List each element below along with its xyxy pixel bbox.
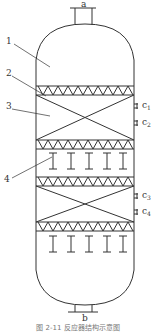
support-band-2 <box>36 140 134 149</box>
vessel-shell <box>36 24 134 305</box>
distributor-2 <box>49 236 127 252</box>
support-band-4 <box>36 222 134 231</box>
callout-3: 3 <box>6 102 12 111</box>
catalyst-bed-1 <box>36 95 134 140</box>
nozzle-label-a: a <box>81 0 86 9</box>
callout-2: 2 <box>6 69 12 78</box>
leader-lines <box>12 44 52 178</box>
port-label-c3: c3 <box>142 191 151 201</box>
figure-caption: 图 2-11 反应器结构示意图 <box>0 322 156 332</box>
bottom-nozzle <box>68 305 98 312</box>
top-nozzle <box>70 8 96 25</box>
port-label-c1: c1 <box>142 101 151 111</box>
port-label-c2: c2 <box>142 118 151 128</box>
callout-4: 4 <box>4 175 10 184</box>
callout-1: 1 <box>6 37 12 46</box>
catalyst-bed-2 <box>36 186 134 222</box>
support-band-3 <box>36 177 134 186</box>
distributor-1 <box>49 153 127 169</box>
support-band-1 <box>36 86 134 95</box>
side-ports <box>134 103 138 215</box>
port-label-c4: c4 <box>142 207 151 217</box>
